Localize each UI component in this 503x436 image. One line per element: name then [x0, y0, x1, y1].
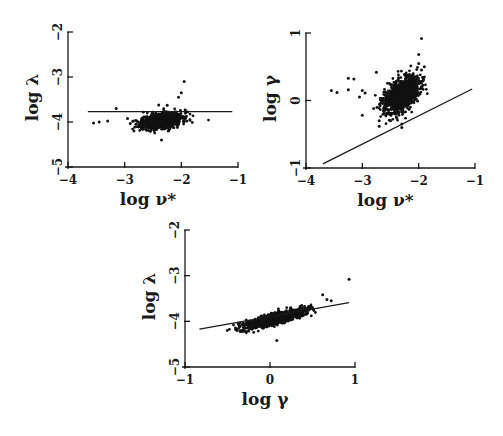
x-tick-label: −3 [353, 174, 371, 188]
x-tick-label: −3 [115, 173, 133, 187]
y-axis-label: log γ [260, 74, 280, 122]
y-tick-label: −4 [51, 113, 65, 131]
y-axis-label: log λ [139, 273, 159, 321]
panel-top-left: −5−4−3−2−4−3−2−1log ν*log λ [22, 23, 247, 209]
y-axis-label: log λ [22, 74, 42, 122]
y-tick-label: −2 [168, 221, 182, 239]
x-axis-label: log γ [242, 389, 290, 409]
y-tick-label: 0 [289, 96, 303, 104]
y-tick-label: −4 [168, 312, 182, 330]
x-axis-label: log ν* [120, 189, 176, 209]
scatter-points [330, 37, 429, 129]
x-tick-label: 1 [351, 373, 359, 387]
panel-top-right: −101−4−3−2−1log ν*log γ [260, 29, 484, 210]
figure: −5−4−3−2−4−3−2−1log ν*log λ −101−4−3−2−1… [0, 0, 503, 436]
x-tick-label: −4 [59, 173, 77, 187]
y-tick-label: −3 [168, 266, 182, 284]
x-axis-label: log ν* [357, 190, 413, 210]
x-tick-label: −2 [409, 174, 427, 188]
x-tick-label: −1 [176, 373, 194, 387]
scatter-points [92, 80, 210, 142]
scatter-points [226, 278, 351, 342]
x-tick-label: −2 [172, 173, 190, 187]
panel-bottom: −5−4−3−2−101log γlog λ [139, 221, 359, 409]
y-tick-label: −3 [51, 68, 65, 86]
x-tick-label: 0 [266, 373, 274, 387]
y-tick-label: 1 [289, 29, 303, 37]
x-tick-label: −1 [466, 174, 484, 188]
x-tick-label: −1 [229, 173, 247, 187]
x-tick-label: −4 [297, 174, 315, 188]
y-tick-label: −2 [51, 23, 65, 41]
